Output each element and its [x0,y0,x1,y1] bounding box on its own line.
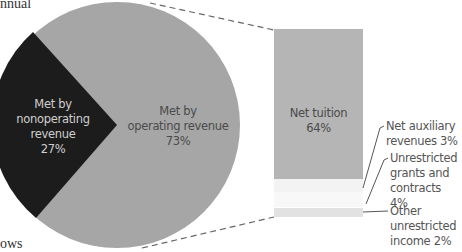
bar-label-other: Other unrestricted income 2% [390,204,456,249]
bar-label-net-tuition: Net tuition 64% [274,106,363,136]
pie-label-nonoperating: Met by nonoperating revenue 27% [10,97,96,157]
bar-segment-net-tuition [274,29,363,179]
leader-net-auxiliary [363,126,384,188]
bar-label-grants: Unrestricted grants and contracts 4% [390,151,462,211]
bar-label-net-auxiliary: Net auxiliary revenues 3% [386,119,458,149]
caption-top-fragment: nnual [0,0,31,12]
bar-segment-other [274,208,363,217]
bar-segment-net-auxiliary [274,179,363,192]
leader-other [363,211,388,212]
caption-bottom-fragment: ows [0,236,23,252]
bar-segment-grants [274,192,363,207]
chart-container: nnual ows Met by nonoperating revenue 27… [0,0,462,252]
pie-label-operating: Met by operating revenue 73% [124,104,232,149]
